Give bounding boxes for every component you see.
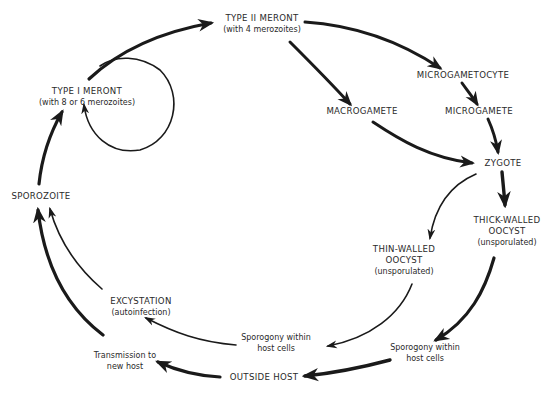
- node-type2-meront: TYPE II MERONT (with 4 merozoites): [214, 13, 310, 35]
- node-sporozoite: SPOROZOITE: [10, 191, 72, 202]
- arrow-transmission-to-sporozoite: [38, 210, 103, 335]
- arrow-sporozoite-to-type1: [39, 112, 62, 184]
- life-cycle-diagram: TYPE II MERONT (with 4 merozoites) TYPE …: [0, 0, 554, 394]
- arrow-macrogamete-to-zygote: [373, 122, 472, 163]
- node-title: OUTSIDE HOST: [222, 372, 306, 383]
- node-line1: THICK-WALLED: [466, 215, 548, 226]
- node-microgamete: MICROGAMETE: [437, 106, 521, 117]
- node-subtitle: (with 8 or 6 merozoites): [27, 97, 147, 108]
- node-line1: Sporogony within: [383, 342, 467, 353]
- node-microgametocyte: MICROGAMETOCYTE: [413, 70, 513, 81]
- node-title: TYPE II MERONT: [214, 13, 310, 24]
- node-line2: OOCYST: [466, 226, 548, 237]
- node-subtitle: (with 4 merozoites): [214, 24, 310, 35]
- node-subtitle: (unsporulated): [466, 237, 548, 248]
- arrow-microgamete-to-zygote: [488, 119, 498, 152]
- node-line2: host cells: [234, 343, 318, 354]
- node-title: ZYGOTE: [478, 158, 528, 169]
- node-line1: Transmission to: [84, 350, 166, 361]
- node-sporogony-inner: Sporogony within host cells: [234, 332, 318, 354]
- node-transmission: Transmission to new host: [84, 350, 166, 372]
- node-outside-host: OUTSIDE HOST: [222, 372, 306, 383]
- node-line2: new host: [84, 361, 166, 372]
- arrow-type2-to-macrogamete: [290, 42, 350, 104]
- arrow-microgametocyte-to-microgamete: [462, 83, 477, 104]
- node-title: MACROGAMETE: [320, 106, 404, 117]
- node-line2: host cells: [383, 353, 467, 364]
- node-excystation: EXCYSTATION (autoinfection): [96, 296, 186, 318]
- node-title: MICROGAMETOCYTE: [413, 70, 513, 81]
- node-sporogony-outer: Sporogony within host cells: [383, 342, 467, 364]
- node-subtitle: (unsporulated): [364, 266, 444, 277]
- arrow-zygote-to-thick-oocyst: [502, 172, 505, 205]
- node-zygote: ZYGOTE: [478, 158, 528, 169]
- arrow-type1-to-type2: [89, 23, 211, 79]
- arrow-thick-oocyst-to-sporogony-outer: [436, 258, 494, 340]
- node-title: EXCYSTATION: [96, 296, 186, 307]
- node-title: SPOROZOITE: [10, 191, 72, 202]
- node-thin-walled-oocyst: THIN-WALLED OOCYST (unsporulated): [364, 244, 444, 277]
- node-line1: Sporogony within: [234, 332, 318, 343]
- node-title: TYPE I MERONT: [27, 86, 147, 97]
- node-type1-meront: TYPE I MERONT (with 8 or 6 merozoites): [27, 86, 147, 108]
- arrow-thin-oocyst-to-sporogony-inner: [328, 284, 412, 346]
- arrow-sporogony-inner-to-excystation: [146, 318, 236, 345]
- node-line2: OOCYST: [364, 255, 444, 266]
- arrow-type2-to-microgametocyte: [305, 22, 440, 68]
- node-subtitle: (autoinfection): [96, 307, 186, 318]
- node-line1: THIN-WALLED: [364, 244, 444, 255]
- arrow-sporogony-outer-to-outside-host: [305, 360, 390, 376]
- node-macrogamete: MACROGAMETE: [320, 106, 404, 117]
- arrow-outside-host-to-transmission: [158, 362, 220, 377]
- node-thick-walled-oocyst: THICK-WALLED OOCYST (unsporulated): [466, 215, 548, 248]
- node-title: MICROGAMETE: [437, 106, 521, 117]
